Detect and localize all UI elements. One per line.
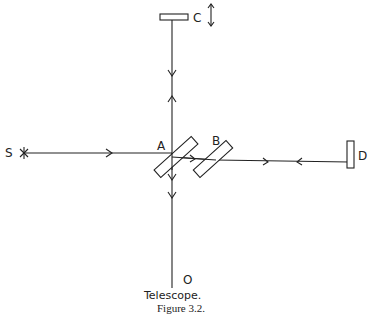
interferometer-diagram [0, 0, 370, 316]
label-mirror-c: C [193, 12, 201, 24]
label-mirror-d: D [358, 150, 367, 162]
label-plate-b: B [212, 135, 220, 147]
beam-b-to-d [216, 160, 349, 162]
figure-caption: Figure 3.2. [157, 303, 205, 314]
label-source: S [5, 147, 13, 159]
label-splitter-a: A [157, 140, 165, 152]
mirror-d [347, 141, 354, 168]
mirror-c [160, 14, 188, 20]
label-telescope: Telescope. [144, 290, 201, 301]
double-arrow-icon [208, 4, 214, 26]
arrow-right-icon [263, 158, 268, 165]
label-telescope-point: O [183, 274, 192, 286]
